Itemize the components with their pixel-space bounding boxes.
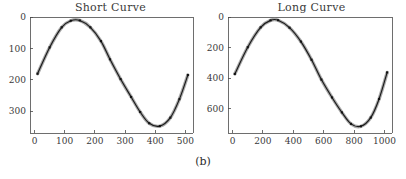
y-tick-label: 400 xyxy=(207,73,224,83)
data-point-marker xyxy=(187,74,189,76)
x-tick-label: 600 xyxy=(315,136,332,146)
data-point-marker xyxy=(341,111,343,113)
data-point-marker xyxy=(37,73,39,75)
x-tick-label: 300 xyxy=(116,136,133,146)
data-point-marker xyxy=(139,111,141,113)
y-tick-label: 200 xyxy=(207,43,224,53)
data-point-marker xyxy=(169,117,171,119)
y-tick-label: 300 xyxy=(9,106,26,116)
panel-long-curve: Long Curve 020040060080010000200400600 xyxy=(203,0,406,152)
data-point-marker xyxy=(159,125,161,127)
subfigure-label: (b) xyxy=(0,155,406,168)
data-point-marker xyxy=(378,98,380,100)
x-tick-label: 1000 xyxy=(373,136,396,146)
data-point-marker xyxy=(120,78,122,80)
data-point-marker xyxy=(350,123,352,125)
data-point-marker xyxy=(49,46,51,48)
plot-long-curve: 020040060080010000200400600 xyxy=(203,0,406,152)
y-tick-label: 0 xyxy=(20,12,26,22)
curve-halo xyxy=(38,20,188,127)
y-tick-label: 100 xyxy=(9,44,26,54)
data-point-marker xyxy=(130,96,132,98)
data-point-marker xyxy=(386,71,388,73)
data-point-marker xyxy=(100,40,102,42)
panel-short-curve: Short Curve 01002003004005000100200300 xyxy=(0,0,203,152)
y-tick-label: 0 xyxy=(218,12,224,22)
data-point-marker xyxy=(277,19,279,21)
data-point-marker xyxy=(70,20,72,22)
data-point-marker xyxy=(61,26,63,28)
x-tick-label: 0 xyxy=(32,136,38,146)
data-point-marker xyxy=(109,58,111,60)
data-point-marker xyxy=(234,73,236,75)
data-point-marker xyxy=(320,79,322,81)
y-tick-label: 600 xyxy=(207,104,224,114)
plot-short-curve: 01002003004005000100200300 xyxy=(0,0,203,152)
data-point-marker xyxy=(269,19,271,21)
data-point-marker xyxy=(360,125,362,127)
data-point-marker xyxy=(331,96,333,98)
data-point-marker xyxy=(310,59,312,61)
data-point-marker xyxy=(247,46,249,48)
curve-line xyxy=(235,19,387,126)
curve-halo xyxy=(235,19,387,126)
x-tick-label: 400 xyxy=(147,136,164,146)
x-tick-label: 400 xyxy=(285,136,302,146)
data-point-marker xyxy=(148,122,150,124)
x-tick-label: 0 xyxy=(230,136,236,146)
x-tick-label: 100 xyxy=(56,136,73,146)
data-point-marker xyxy=(89,26,91,28)
data-point-marker xyxy=(288,27,290,29)
data-point-marker xyxy=(300,41,302,43)
curve-line xyxy=(38,20,188,127)
data-point-marker xyxy=(178,98,180,100)
figure-container: Short Curve 01002003004005000100200300 L… xyxy=(0,0,406,179)
data-point-marker xyxy=(260,26,262,28)
x-tick-label: 800 xyxy=(345,136,362,146)
y-tick-label: 200 xyxy=(9,75,26,85)
x-tick-label: 500 xyxy=(177,136,194,146)
data-point-marker xyxy=(370,117,372,119)
data-point-marker xyxy=(79,19,81,21)
x-tick-label: 200 xyxy=(254,136,271,146)
x-tick-label: 200 xyxy=(86,136,103,146)
